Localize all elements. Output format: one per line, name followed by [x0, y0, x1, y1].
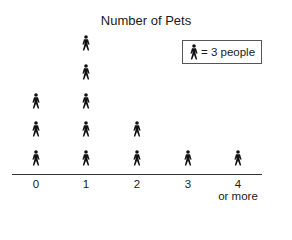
person-icon [81, 64, 91, 80]
person-icon [31, 93, 41, 109]
person-icon [132, 150, 142, 166]
x-tick-label: 4or more [208, 178, 268, 202]
person-icon [132, 121, 142, 137]
person-icon [31, 121, 41, 137]
person-icon [31, 150, 41, 166]
x-tick-label-main: 4 [208, 178, 268, 190]
x-axis-line [12, 174, 262, 175]
person-icon [81, 121, 91, 137]
x-tick-label-sub: or more [208, 190, 268, 202]
person-icon [81, 150, 91, 166]
person-icon [81, 35, 91, 51]
person-icon [183, 150, 193, 166]
person-icon [81, 93, 91, 109]
person-icon [233, 150, 243, 166]
